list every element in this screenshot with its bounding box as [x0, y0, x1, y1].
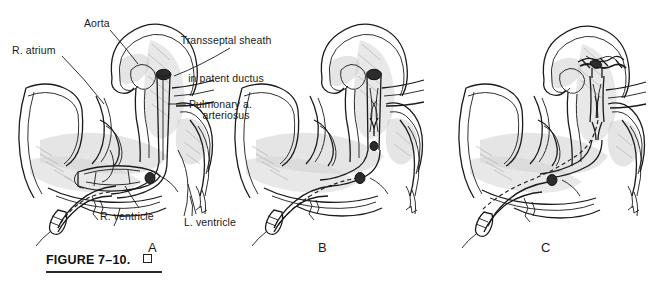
figure-caption: FIGURE 7–10. — [46, 250, 226, 268]
figure-container: R. atrium Aorta Transseptal sheath in pa… — [0, 0, 662, 281]
device-hub-a — [145, 173, 155, 184]
panel-letter-b: B — [318, 240, 327, 255]
label-r-ventricle: R. ventricle — [100, 210, 154, 223]
device-hub-b — [355, 173, 365, 184]
label-pulmonary-artery: Pulmonary a. — [189, 98, 252, 111]
panel-c-artwork — [459, 26, 646, 248]
caption-rule — [46, 271, 162, 273]
label-transseptal-sheath: Transseptal sheath in patent ductus arte… — [158, 9, 294, 147]
open-square-icon — [143, 254, 152, 263]
device-hub-c — [547, 175, 557, 186]
label-aorta: Aorta — [84, 17, 110, 30]
label-transseptal-line-1: Transseptal sheath — [158, 34, 294, 47]
figure-caption-text: FIGURE 7–10. — [46, 253, 130, 267]
label-transseptal-line-3: arteriosus — [158, 109, 294, 122]
sheath-tip-opening-b — [367, 69, 382, 79]
label-transseptal-line-2: in patent ductus — [158, 72, 294, 85]
leader-l-ventricle — [188, 184, 196, 214]
label-r-atrium: R. atrium — [12, 44, 56, 57]
panel-letter-c: C — [541, 240, 551, 255]
label-l-ventricle: L. ventricle — [184, 216, 236, 229]
anatomical-illustration — [0, 0, 662, 281]
leader-r-atrium — [62, 56, 104, 104]
device-tip-b — [370, 142, 378, 151]
